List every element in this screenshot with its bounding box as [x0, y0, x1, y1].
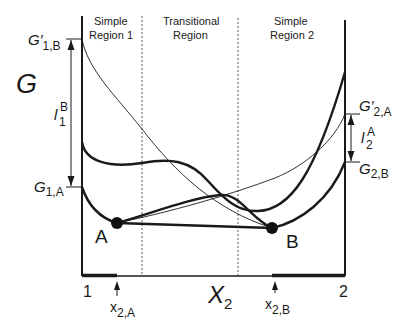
x2a-sub: 2,A: [117, 306, 135, 320]
point-b-label: B: [286, 231, 299, 252]
curve-thick-phase1: [82, 72, 345, 211]
x-tick-2: 2: [339, 283, 348, 300]
point-a-marker: [111, 217, 123, 229]
x-tick-1: 1: [83, 283, 92, 300]
x2b-label: x2,B: [265, 296, 290, 317]
l2a-sup: A: [367, 125, 375, 139]
region2-title-line1: Simple: [274, 15, 308, 27]
g-2b-main: G: [359, 160, 371, 177]
l2a-main: l: [361, 129, 365, 146]
l2a-label: l: [361, 129, 365, 146]
curve-thick-right-branch: [272, 162, 345, 228]
x2a-label: x2,A: [110, 299, 135, 320]
phase-diagram: A B Simple Region 1 Transitional Region …: [0, 0, 404, 333]
l1b-sup: B: [60, 100, 68, 114]
point-a-label: A: [95, 226, 108, 247]
x2b-main: x: [265, 296, 272, 312]
y-axis-label: G: [16, 69, 37, 99]
l1b-arrow-up-icon: [68, 40, 75, 50]
g-1a-main: G: [34, 178, 46, 195]
x-axis-label-sub: 2: [224, 295, 232, 312]
g-prime-2a-sub: 2,A: [373, 105, 391, 119]
l1b-label: l: [54, 106, 58, 123]
x2a-arrow-up-icon: [114, 281, 120, 290]
l1b-main: l: [54, 106, 58, 123]
point-b-marker: [266, 222, 278, 234]
l2a-arrow-up-icon: [348, 115, 355, 125]
x2b-sub: 2,B: [272, 303, 290, 317]
l1b-sub: 1: [59, 115, 66, 129]
x2a-main: x: [110, 299, 117, 315]
l2a-arrow-down-icon: [348, 151, 355, 161]
common-tangent-line: [117, 223, 272, 228]
g-prime-1b-label: G′1,B: [28, 31, 61, 53]
g-prime-2a-label: G′2,A: [359, 97, 392, 119]
g-prime-2a-main: G′: [359, 97, 375, 114]
g-prime-1b-main: G′: [28, 31, 44, 48]
curve-thin-ascending: [117, 114, 345, 223]
curve-thick-left-branch: [82, 187, 117, 223]
region-transitional-title-line1: Transitional: [163, 15, 219, 27]
region1-title-line1: Simple: [94, 15, 128, 27]
x-axis-label-main: X: [207, 281, 225, 308]
x2b-arrow-up-icon: [272, 281, 278, 290]
l1b-arrow-down-icon: [68, 176, 75, 186]
l2a-sub: 2: [366, 138, 373, 152]
region-transitional-title-line2: Region: [173, 29, 208, 41]
g-prime-1b-sub: 1,B: [42, 39, 60, 53]
g-2b-sub: 2,B: [371, 167, 389, 181]
region1-title-line2: Region 1: [89, 29, 133, 41]
region2-title-line2: Region 2: [270, 29, 314, 41]
x-axis-label: X2: [207, 281, 232, 312]
g-2b-label: G2,B: [359, 160, 389, 181]
g-1a-label: G1,A: [34, 178, 64, 199]
curve-thin-descending: [82, 39, 272, 228]
g-1a-sub: 1,A: [46, 185, 64, 199]
